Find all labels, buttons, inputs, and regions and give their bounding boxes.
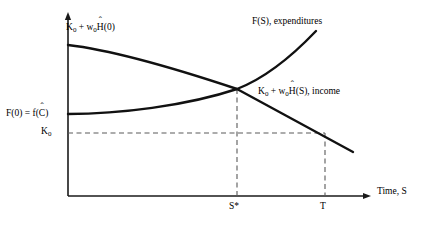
initial-plus: + w <box>76 22 93 32</box>
circumflex-icon: ˆ <box>99 17 102 27</box>
y-tick-label-k0: K0 <box>41 126 51 136</box>
f0-prefix: F(0) = f( <box>6 108 39 118</box>
x-axis-title: Time, S <box>377 186 407 196</box>
x-tick-label-t: T <box>320 201 326 211</box>
y-axis <box>65 12 71 196</box>
y-intercept-income-label: F(0) = f(ˆC) <box>6 108 48 118</box>
circumflex-icon: ˆ <box>291 81 294 91</box>
income-plus: + w <box>268 86 285 96</box>
curve-income <box>68 89 353 152</box>
initial-suffix: (0) <box>104 22 115 32</box>
k0-sub: 0 <box>48 130 52 138</box>
series-label-expenditures: F(S), expenditures <box>252 16 322 26</box>
initial-prefix: K <box>66 22 73 32</box>
curve-expenditures <box>68 31 316 89</box>
initial-intercept-label: K0 + w0ˆH(0) <box>66 22 115 32</box>
figure-container: F(S), expenditures K0 + w0ˆH(0) K0 + w0ˆ… <box>0 0 423 228</box>
income-prefix: K <box>258 86 265 96</box>
initial-hat-group: ˆH <box>97 22 104 32</box>
income-suffix: (S), income <box>296 86 340 96</box>
x-tick-label-s-star: S* <box>229 201 239 211</box>
f0-suffix: ) <box>45 108 48 118</box>
f0-hat-group: ˆC <box>39 108 45 118</box>
series-label-income: K0 + w0ˆH(S), income <box>258 86 340 96</box>
circumflex-icon: ˆ <box>40 103 43 113</box>
k0-prefix: K <box>41 126 48 136</box>
plot-svg <box>0 0 423 228</box>
income-hat-group: ˆH <box>289 86 296 96</box>
